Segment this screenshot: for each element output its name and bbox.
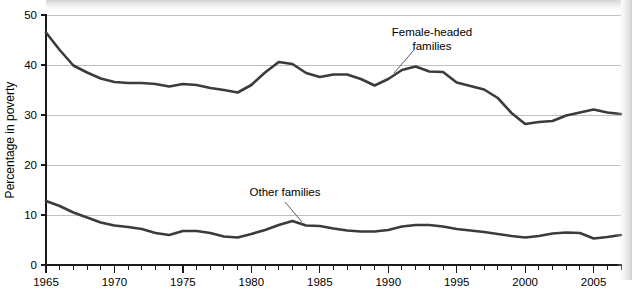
x-tick-label-1990: 1990 bbox=[375, 276, 401, 288]
y-tick-label-50: 50 bbox=[24, 9, 37, 21]
poverty-line-chart: 01020304050 1965197019751980198519901995… bbox=[0, 0, 632, 294]
x-tick-label-1995: 1995 bbox=[444, 276, 470, 288]
x-tick-label-2000: 2000 bbox=[512, 276, 538, 288]
x-tick-label-1985: 1985 bbox=[307, 276, 333, 288]
y-tick-label-30: 30 bbox=[24, 109, 37, 121]
top-shadow-band bbox=[46, 0, 621, 13]
y-tick-label-20: 20 bbox=[24, 159, 37, 171]
x-tick-label-1980: 1980 bbox=[239, 276, 265, 288]
y-tick-label-40: 40 bbox=[24, 59, 37, 71]
chart-figure: 01020304050 1965197019751980198519901995… bbox=[0, 0, 632, 294]
y-tick-label-0: 0 bbox=[31, 259, 37, 271]
x-tick-label-1970: 1970 bbox=[102, 276, 128, 288]
x-tick-label-1975: 1975 bbox=[170, 276, 196, 288]
chart-background bbox=[0, 0, 632, 294]
right-shadow-band bbox=[616, 0, 632, 280]
y-tick-label-10: 10 bbox=[24, 209, 37, 221]
y-axis-title: Percentage in poverty bbox=[3, 82, 17, 199]
x-tick-label-2005: 2005 bbox=[581, 276, 607, 288]
x-tick-label-1965: 1965 bbox=[33, 276, 59, 288]
annotation-other-families-label: Other families bbox=[250, 186, 321, 198]
